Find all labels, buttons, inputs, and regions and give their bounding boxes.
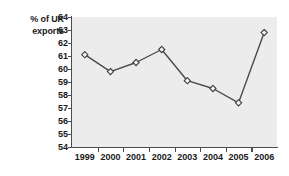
data-series [0,0,289,176]
series-line [85,33,264,103]
data-point-2005 [235,100,241,106]
data-point-2006 [261,30,267,36]
line-chart: % of UK exports 6463626160595857565554 1… [0,0,289,176]
data-point-2001 [133,59,139,65]
series-markers [82,30,268,106]
data-point-2004 [210,85,216,91]
